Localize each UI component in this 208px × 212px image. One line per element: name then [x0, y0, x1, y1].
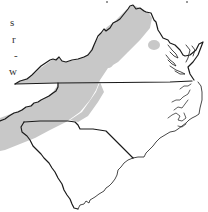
- chesapeake-inlets: [166, 45, 195, 74]
- pamlico-sound-inlets: [168, 84, 191, 127]
- range-map: [0, 0, 208, 212]
- nc-coast: [133, 82, 202, 158]
- page-figure: s r - w: [0, 0, 208, 212]
- sc-coast: [78, 158, 133, 209]
